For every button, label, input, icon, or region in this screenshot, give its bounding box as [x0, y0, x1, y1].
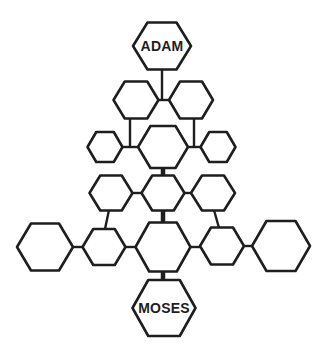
hexagon-node-r5-far-right: [252, 221, 310, 271]
connector-r4right-r5right: [214, 210, 219, 228]
hexagon-nodes: [17, 23, 310, 337]
hexagon-node-r5-center: [136, 223, 191, 272]
hexagon-node-r4-right: [191, 176, 235, 211]
hexagon-node-r5-left: [83, 229, 126, 265]
connector-r4left-r5left: [105, 210, 109, 229]
diagram-canvas: ADAM MOSES: [0, 0, 325, 360]
hexagon-node-r3-center: [138, 126, 188, 168]
hexagon-node-r2-left: [114, 82, 159, 119]
node-label-moses: MOSES: [138, 300, 190, 316]
hexagon-node-r5-right: [200, 228, 244, 265]
hexagon-node-r4-left: [90, 176, 133, 211]
hexagon-node-r2-right: [169, 82, 213, 119]
hexagon-node-r3-right: [201, 132, 236, 162]
hexagon-node-r5-far-left: [17, 224, 73, 271]
hexagon-node-r3-left: [88, 132, 123, 162]
node-label-adam: ADAM: [141, 38, 184, 54]
hexagon-node-r4-center: [142, 176, 185, 211]
